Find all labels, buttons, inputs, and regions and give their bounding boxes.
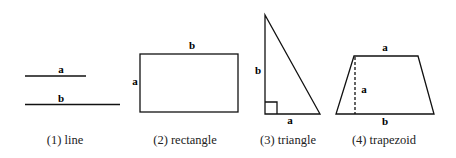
triangle-vertical-label: b xyxy=(255,64,261,76)
trapezoid-top-label: a xyxy=(382,41,388,53)
figure-triangle: b a (3) triangle xyxy=(255,15,320,147)
figure-line: a b (1) line xyxy=(25,63,120,147)
caption-rectangle: (2) rectangle xyxy=(153,133,217,147)
rectangle-top-label: b xyxy=(189,39,195,51)
caption-triangle: (3) triangle xyxy=(260,133,316,147)
shapes-diagram: a b (1) line b a (2) rectangle b a (3) t… xyxy=(0,0,456,158)
line-b-label: b xyxy=(58,92,64,104)
triangle-base-label: a xyxy=(287,114,293,126)
figure-rectangle: b a (2) rectangle xyxy=(132,39,238,147)
caption-line: (1) line xyxy=(47,133,84,147)
figure-trapezoid: a a b (4) trapezoid xyxy=(336,41,434,147)
rectangle-shape xyxy=(140,54,238,112)
rectangle-left-label: a xyxy=(132,75,138,87)
caption-trapezoid: (4) trapezoid xyxy=(352,133,417,147)
right-angle-marker xyxy=(265,102,277,114)
triangle-shape xyxy=(265,15,320,114)
trapezoid-base-label: b xyxy=(382,115,388,127)
trapezoid-height-label: a xyxy=(361,83,367,95)
line-a-label: a xyxy=(58,63,64,75)
trapezoid-shape xyxy=(336,56,434,114)
